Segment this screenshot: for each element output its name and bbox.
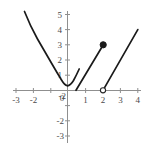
y-tick-label--1: -2 — [59, 91, 67, 101]
x-tick-label-1: 1 — [83, 95, 88, 105]
function-graph: -3 -2 0 1 2 3 4 5 4 3 2 1 -2 -2 -3 — [0, 0, 148, 152]
open-point-marker — [100, 88, 105, 93]
x-tick-label-2: 2 — [101, 95, 106, 105]
y-tick-label--3: -3 — [57, 131, 65, 141]
x-tick-label-4: 4 — [136, 95, 141, 105]
middle-line-segment — [76, 45, 103, 90]
right-line-segment — [103, 30, 138, 91]
y-tick-label-5: 5 — [58, 10, 63, 20]
parabola-curve — [25, 12, 80, 86]
x-tick-label-3: 3 — [118, 95, 123, 105]
x-tick-label--3: -3 — [12, 95, 20, 105]
y-tick-label-2: 2 — [58, 55, 63, 65]
y-tick-label-3: 3 — [58, 40, 63, 50]
y-tick-label-4: 4 — [58, 25, 63, 35]
graph-figure: -3 -2 0 1 2 3 4 5 4 3 2 1 -2 -2 -3 — [0, 0, 148, 152]
y-tick-label--2: -2 — [57, 116, 65, 126]
x-tick-label--2: -2 — [30, 95, 38, 105]
closed-point-marker — [100, 42, 106, 48]
